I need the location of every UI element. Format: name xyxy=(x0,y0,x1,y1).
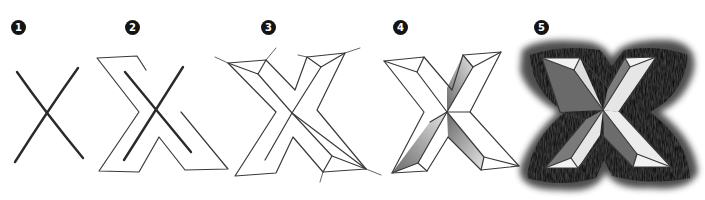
drawing-canvas xyxy=(0,0,705,200)
step-3-bevel-guides xyxy=(215,48,381,182)
step-5-final xyxy=(520,40,698,191)
step-4-shading xyxy=(384,52,519,173)
tutorial-figure: 1 2 3 4 5 xyxy=(0,0,705,200)
step-2-outline xyxy=(97,56,228,172)
step-1-cross-lines xyxy=(15,68,83,162)
